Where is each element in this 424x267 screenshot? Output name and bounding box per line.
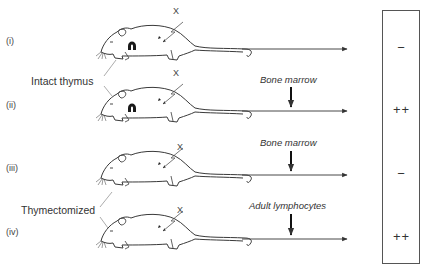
intact-thymus-leader-up [104, 60, 116, 76]
result-ii: ++ [383, 102, 420, 117]
mouse-thymectomized-iii [96, 148, 251, 186]
mouse-intact-thymus-i [96, 22, 251, 60]
treatment-label-iv: Adult lymphocytes [249, 200, 326, 211]
mouse-intact-thymus-ii [96, 84, 251, 122]
irradiation-mark-iii: X [177, 142, 183, 152]
result-iii: − [383, 166, 420, 181]
irradiation-mark-i: X [173, 6, 179, 16]
irradiation-mark-ii: X [173, 68, 179, 78]
row-label-ii: (ii) [6, 100, 16, 110]
diagram-artwork [0, 0, 424, 267]
result-iv: ++ [383, 229, 420, 244]
thymectomized-label: Thymectomized [21, 204, 95, 216]
intact-thymus-leader-down [104, 86, 112, 96]
row-label-iii: (iii) [6, 163, 18, 173]
mouse-thymectomized-iv [96, 211, 251, 249]
row-label-i: (i) [6, 36, 14, 46]
thymectomized-leader-down [100, 217, 108, 228]
result-i: − [383, 40, 420, 55]
thymectomized-leader-up [100, 192, 112, 207]
irradiation-mark-iv: X [177, 205, 183, 215]
treatment-label-ii: Bone marrow [260, 74, 317, 85]
row-label-iv: (iv) [6, 227, 19, 237]
treatment-label-iii: Bone marrow [260, 137, 317, 148]
intact-thymus-label: Intact thymus [31, 75, 93, 87]
